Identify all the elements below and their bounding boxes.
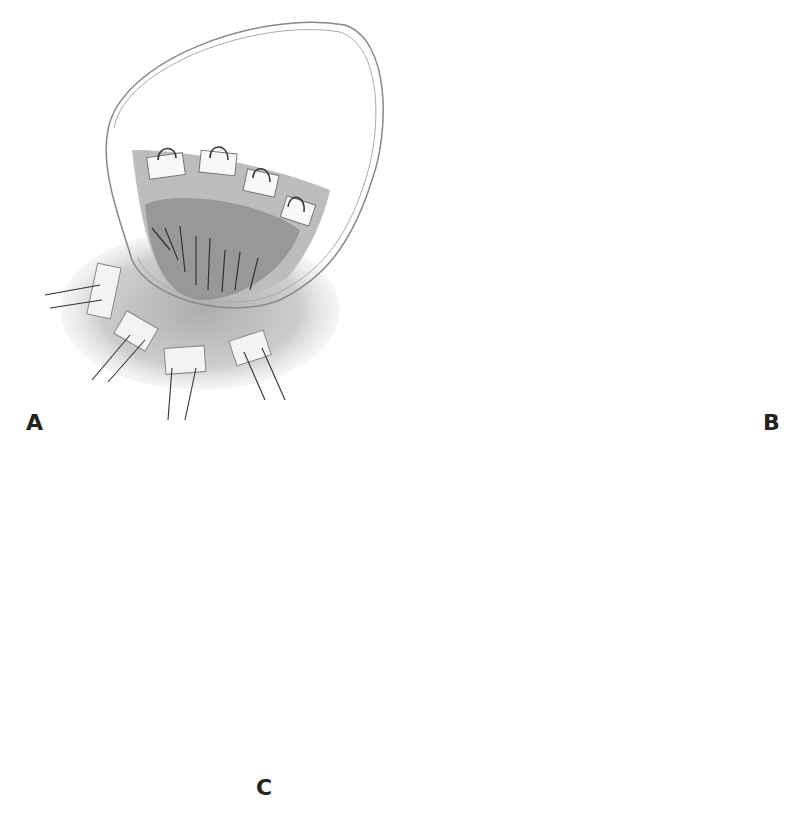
- panel-label-b: B: [763, 410, 780, 435]
- panel-label-a: A: [26, 410, 43, 435]
- illustration-canvas: [0, 0, 800, 813]
- panel-label-c: C: [256, 775, 272, 800]
- panel-a-illustration: [45, 22, 383, 420]
